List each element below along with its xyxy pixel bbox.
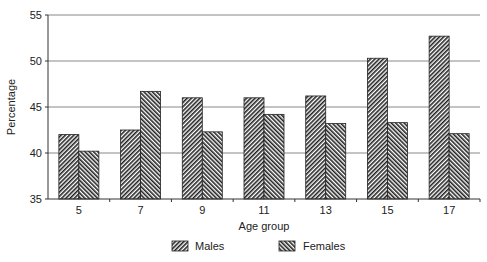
x-tick-label: 7	[138, 204, 144, 216]
y-axis-label: Percentage	[5, 79, 17, 135]
bar-females-9	[202, 132, 222, 199]
legend-swatch-females	[279, 241, 295, 251]
bar-chart: 354045505557911131517 Age group Percenta…	[0, 0, 487, 262]
x-tick-label: 9	[199, 204, 205, 216]
bar-females-15	[387, 123, 407, 199]
bar-males-13	[306, 96, 326, 199]
bar-males-15	[367, 58, 387, 199]
bar-females-11	[264, 114, 284, 199]
bar-males-11	[244, 98, 264, 199]
legend-label-females: Females	[303, 240, 346, 252]
x-tick-label: 17	[443, 204, 455, 216]
bar-females-13	[326, 124, 346, 199]
bar-males-17	[429, 36, 449, 199]
x-axis-label: Age group	[239, 220, 290, 232]
y-tick-label: 40	[30, 147, 42, 159]
bar-females-17	[449, 134, 469, 199]
legend-label-males: Males	[195, 240, 225, 252]
legend-swatch-males	[172, 241, 188, 251]
bar-females-5	[79, 151, 99, 199]
x-tick-label: 15	[381, 204, 393, 216]
y-tick-label: 45	[30, 101, 42, 113]
bar-males-7	[121, 130, 141, 199]
bar-males-9	[182, 98, 202, 199]
bar-females-7	[141, 91, 161, 199]
legend: Males Females	[172, 240, 346, 252]
y-tick-label: 35	[30, 193, 42, 205]
y-tick-label: 55	[30, 9, 42, 21]
y-tick-label: 50	[30, 55, 42, 67]
x-tick-label: 11	[258, 204, 269, 216]
x-tick-label: 13	[320, 204, 332, 216]
bar-males-5	[59, 135, 79, 199]
x-tick-label: 5	[76, 204, 82, 216]
